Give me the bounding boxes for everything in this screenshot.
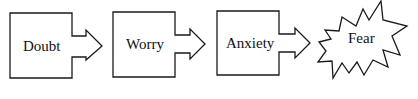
node-label-doubt: Doubt xyxy=(23,39,61,54)
flow-diagram: Doubt Worry Anxiety Fear xyxy=(0,0,418,99)
node-label-anxiety: Anxiety xyxy=(226,36,274,51)
diagram-shapes xyxy=(0,0,418,99)
node-label-fear: Fear xyxy=(348,31,375,46)
node-label-worry: Worry xyxy=(126,37,164,52)
